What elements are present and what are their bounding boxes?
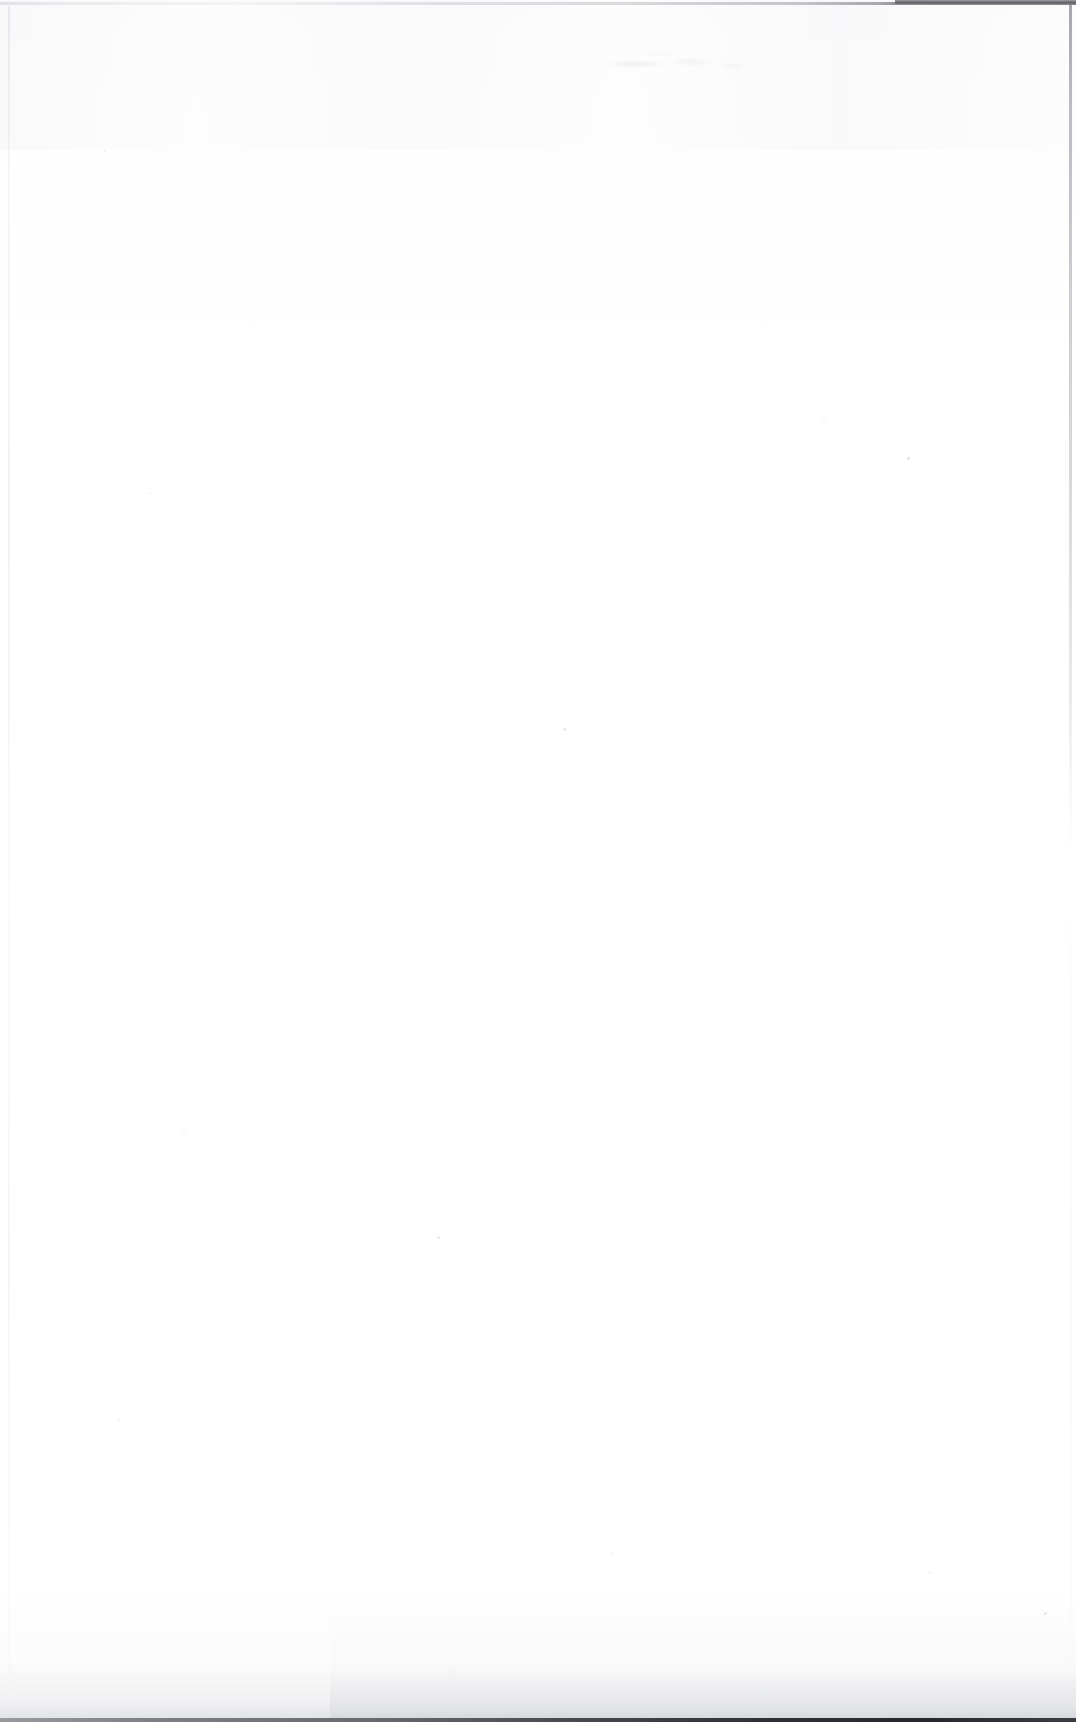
document-body (0, 0, 1076, 1722)
scanned-page (0, 0, 1076, 1722)
